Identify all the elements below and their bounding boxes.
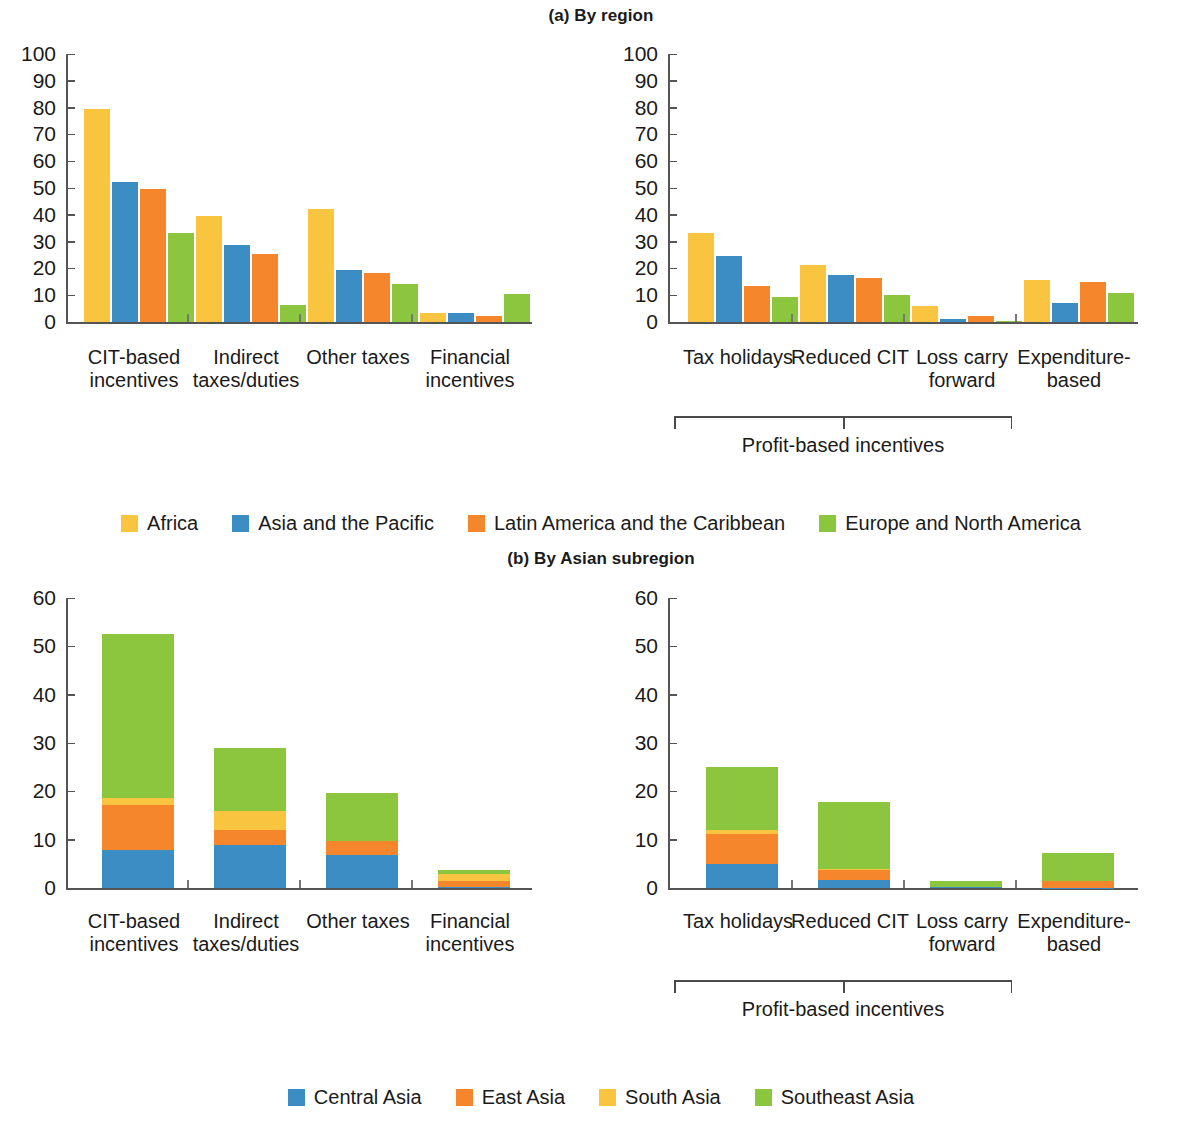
- stack-segment-b-right-2-0: [930, 887, 1002, 888]
- bracket-center-stem: [843, 980, 845, 993]
- x-axis-group-separator: [187, 314, 189, 322]
- bar-a-left-2-0: [308, 209, 334, 322]
- y-axis-tick-mark: [66, 134, 75, 136]
- legend-swatch-icon: [755, 1089, 772, 1106]
- legend-label: Asia and the Pacific: [258, 512, 434, 535]
- bar-a-left-0-1: [112, 182, 138, 322]
- y-axis-tick-label: 30: [600, 731, 658, 755]
- y-axis-tick-label: 0: [600, 310, 658, 334]
- y-axis-tick-label: 100: [600, 42, 658, 66]
- y-axis-tick-label: 30: [0, 731, 56, 755]
- bar-a-right-2-2: [968, 316, 994, 322]
- bracket-right-tick: [1011, 416, 1013, 429]
- y-axis-tick-label: 0: [0, 310, 56, 334]
- x-axis-category-label: Other taxes: [294, 346, 422, 369]
- plot-area-b-left: 0102030405060CIT-based incentivesIndirec…: [0, 582, 600, 1082]
- y-axis-tick-mark: [66, 161, 75, 163]
- legend-label: East Asia: [482, 1086, 565, 1109]
- y-axis-tick-mark: [66, 268, 75, 270]
- x-axis-group-separator: [1015, 314, 1017, 322]
- stack-segment-b-right-2-3: [930, 881, 1002, 887]
- panel-b-title: (b) By Asian subregion: [0, 549, 1202, 569]
- x-axis-group-separator: [187, 880, 189, 888]
- y-axis-tick-mark: [668, 241, 677, 243]
- legend-swatch-icon: [468, 515, 485, 532]
- y-axis-tick-mark: [668, 646, 677, 648]
- x-axis-line: [66, 322, 532, 324]
- legend-swatch-icon: [121, 515, 138, 532]
- y-axis-tick-mark: [668, 54, 677, 56]
- x-axis-category-label: Tax holidays: [674, 346, 802, 369]
- x-axis-group-separator: [903, 880, 905, 888]
- bar-a-left-2-2: [364, 273, 390, 322]
- y-axis-tick-label: 90: [600, 69, 658, 93]
- y-axis-tick-mark: [66, 295, 75, 297]
- stack-segment-b-left-2-1: [326, 841, 398, 856]
- bar-a-left-1-0: [196, 216, 222, 322]
- stack-segment-b-right-1-3: [818, 802, 890, 869]
- y-axis-tick-label: 40: [600, 203, 658, 227]
- bar-a-right-1-0: [800, 265, 826, 322]
- stack-segment-b-left-3-1: [438, 881, 510, 887]
- panel-a-title: (a) By region: [0, 6, 1202, 26]
- legend-swatch-icon: [819, 515, 836, 532]
- y-axis-tick-label: 70: [0, 122, 56, 146]
- x-axis-line: [66, 888, 532, 890]
- stack-segment-b-right-1-1: [818, 870, 890, 881]
- y-axis-tick-mark: [66, 188, 75, 190]
- y-axis-tick-mark: [668, 214, 677, 216]
- y-axis-tick-label: 60: [600, 149, 658, 173]
- stack-segment-b-left-1-2: [214, 811, 286, 829]
- y-axis-tick-label: 50: [0, 176, 56, 200]
- legend-region-item[interactable]: Asia and the Pacific: [232, 512, 434, 535]
- x-axis-line: [668, 322, 1138, 324]
- legend-region-item[interactable]: Africa: [121, 512, 198, 535]
- legend-label: Latin America and the Caribbean: [494, 512, 785, 535]
- y-axis-tick-label: 10: [0, 828, 56, 852]
- chart-a-right: 0102030405060708090100Tax holidaysReduce…: [600, 40, 1202, 540]
- bar-a-right-3-3: [1108, 293, 1134, 322]
- y-axis-tick-mark: [668, 295, 677, 297]
- bar-a-right-2-1: [940, 319, 966, 322]
- x-axis-category-label: Expenditure- based: [1010, 346, 1138, 392]
- y-axis-tick-mark: [668, 268, 677, 270]
- legend-subregion-item[interactable]: East Asia: [456, 1086, 565, 1109]
- x-axis-category-label: Loss carry forward: [898, 346, 1026, 392]
- legend-subregion-item[interactable]: South Asia: [599, 1086, 721, 1109]
- y-axis-tick-label: 60: [0, 586, 56, 610]
- bracket-right-tick: [1011, 980, 1013, 993]
- y-axis-tick-mark: [668, 598, 677, 600]
- y-axis-tick-mark: [66, 214, 75, 216]
- legend-subregion-item[interactable]: Central Asia: [288, 1086, 422, 1109]
- x-axis-category-label: Reduced CIT: [786, 910, 914, 933]
- legend-region-item[interactable]: Latin America and the Caribbean: [468, 512, 785, 535]
- legend-swatch-icon: [599, 1089, 616, 1106]
- bar-a-left-0-3: [168, 233, 194, 322]
- y-axis-tick-mark: [668, 791, 677, 793]
- panel-b-charts: 0102030405060CIT-based incentivesIndirec…: [0, 582, 1202, 1082]
- x-axis-category-label: Financial incentives: [406, 910, 534, 956]
- stack-segment-b-left-2-3: [326, 793, 398, 841]
- x-axis-category-label: Tax holidays: [674, 910, 802, 933]
- y-axis-tick-mark: [668, 107, 677, 109]
- legend-swatch-icon: [232, 515, 249, 532]
- y-axis-tick-label: 20: [0, 256, 56, 280]
- y-axis-tick-label: 80: [600, 96, 658, 120]
- x-axis-group-separator: [299, 880, 301, 888]
- stack-segment-b-right-3-0: [1042, 888, 1114, 889]
- y-axis-tick-label: 40: [600, 683, 658, 707]
- y-axis-tick-mark: [668, 743, 677, 745]
- stack-segment-b-left-1-1: [214, 830, 286, 845]
- bracket-label: Profit-based incentives: [674, 998, 1012, 1021]
- bar-a-left-3-3: [504, 294, 530, 322]
- stack-segment-b-left-3-2: [438, 874, 510, 880]
- x-axis-category-label: Other taxes: [294, 910, 422, 933]
- y-axis-tick-label: 60: [600, 586, 658, 610]
- legend-subregion-item[interactable]: Southeast Asia: [755, 1086, 914, 1109]
- plot-area-a-left: 0102030405060708090100CIT-based incentiv…: [0, 40, 600, 540]
- bar-a-right-2-0: [912, 306, 938, 322]
- legend-swatch-icon: [456, 1089, 473, 1106]
- y-axis-tick-mark: [66, 54, 75, 56]
- chart-a-left: 0102030405060708090100CIT-based incentiv…: [0, 40, 600, 540]
- legend-region-item[interactable]: Europe and North America: [819, 512, 1081, 535]
